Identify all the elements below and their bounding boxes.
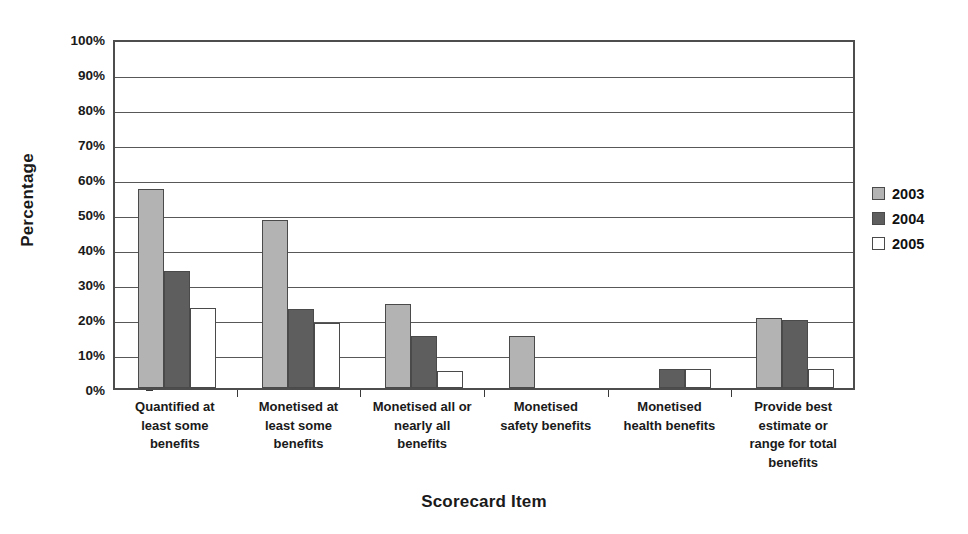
y-axis-tick-label: 30% — [45, 278, 105, 293]
category-label-line: least some — [237, 417, 361, 436]
legend-label: 2005 — [892, 236, 924, 252]
category-label-line: Monetised — [608, 398, 732, 417]
bar-2004-cat5 — [782, 320, 808, 388]
gridline — [115, 182, 853, 183]
x-axis-title: Scorecard Item — [113, 492, 855, 512]
bar-2004-cat1 — [288, 309, 314, 388]
bar-2005-cat1 — [314, 323, 340, 388]
bar-2005-cat5 — [808, 369, 834, 388]
category-label-line: Quantified at — [113, 398, 237, 417]
x-axis-category-labels: Quantified atleast somebenefitsMonetised… — [113, 398, 855, 488]
y-axis-tick-label: 80% — [45, 103, 105, 118]
legend-item-2005[interactable]: 2005 — [872, 231, 964, 256]
category-label-line: least some — [113, 417, 237, 436]
category-label-line: benefits — [113, 435, 237, 454]
legend-swatch-icon — [872, 212, 885, 225]
x-axis-tick-mark — [360, 390, 361, 397]
gridline — [115, 357, 853, 358]
gridline — [115, 252, 853, 253]
bar-2004-cat4 — [659, 369, 685, 388]
legend-item-2003[interactable]: 2003 — [872, 181, 964, 206]
y-axis-tick-label: 100% — [45, 33, 105, 48]
y-axis-tick-label: 50% — [45, 208, 105, 223]
bar-2003-cat2 — [385, 304, 411, 388]
category-label-line: benefits — [237, 435, 361, 454]
x-axis-tick-marks — [113, 390, 855, 398]
gridline — [115, 112, 853, 113]
chart-legend: 200320042005 — [872, 181, 964, 256]
legend-item-2004[interactable]: 2004 — [872, 206, 964, 231]
category-label-line: nearly all — [360, 417, 484, 436]
category-label: Monetisedhealth benefits — [608, 398, 732, 435]
y-axis-tick-label: 20% — [45, 313, 105, 328]
category-label-line: Provide best — [731, 398, 855, 417]
category-label-line: range for total — [731, 435, 855, 454]
y-axis-tick-label: 0% — [45, 383, 105, 398]
legend-label: 2004 — [892, 211, 924, 227]
bar-2003-cat1 — [262, 220, 288, 388]
y-axis-tick-label: 90% — [45, 68, 105, 83]
plot-area — [113, 40, 855, 390]
bar-2005-cat0 — [190, 308, 216, 389]
y-axis-tick-labels: 0%10%20%30%40%50%60%70%80%90%100% — [40, 40, 105, 390]
category-label-line: benefits — [360, 435, 484, 454]
category-label: Monetisedsafety benefits — [484, 398, 608, 435]
legend-label: 2003 — [892, 186, 924, 202]
y-axis-tick-label: 10% — [45, 348, 105, 363]
y-axis-title: Percentage — [18, 110, 38, 290]
gridline — [115, 217, 853, 218]
x-axis-tick-mark — [731, 390, 732, 397]
bar-chart: Percentage 0%10%20%30%40%50%60%70%80%90%… — [0, 0, 968, 534]
y-axis-tick-label: 40% — [45, 243, 105, 258]
bar-2005-cat4 — [685, 369, 711, 388]
x-axis-tick-mark — [608, 390, 609, 397]
category-label-line: Monetised — [484, 398, 608, 417]
gridline — [115, 322, 853, 323]
gridline — [115, 77, 853, 78]
category-label: Provide bestestimate orrange for totalbe… — [731, 398, 855, 472]
category-label-line: benefits — [731, 454, 855, 473]
gridline — [115, 287, 853, 288]
category-label: Quantified atleast somebenefits — [113, 398, 237, 454]
x-axis-tick-mark — [484, 390, 485, 397]
category-label: Monetised atleast somebenefits — [237, 398, 361, 454]
x-axis-tick-mark — [237, 390, 238, 397]
category-label-line: health benefits — [608, 417, 732, 436]
bar-2005-cat2 — [437, 371, 463, 389]
category-label-line: safety benefits — [484, 417, 608, 436]
bar-2004-cat0 — [164, 271, 190, 388]
y-axis-tick-label: 60% — [45, 173, 105, 188]
legend-swatch-icon — [872, 237, 885, 250]
bar-2003-cat5 — [756, 318, 782, 388]
category-label-line: Monetised at — [237, 398, 361, 417]
bar-2004-cat2 — [411, 336, 437, 389]
legend-swatch-icon — [872, 187, 885, 200]
bar-2003-cat0 — [138, 189, 164, 389]
category-label-line: estimate or — [731, 417, 855, 436]
bar-2003-cat3 — [509, 336, 535, 389]
category-label-line: Monetised all or — [360, 398, 484, 417]
y-axis-tick-label: 70% — [45, 138, 105, 153]
gridline — [115, 147, 853, 148]
category-label: Monetised all ornearly allbenefits — [360, 398, 484, 454]
